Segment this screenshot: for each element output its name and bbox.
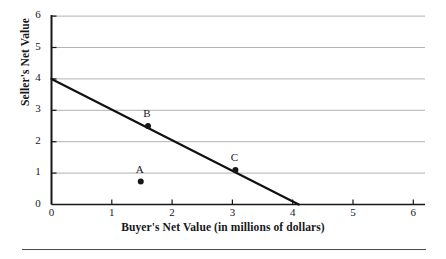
x-tick-label: 3 <box>224 206 240 218</box>
x-tick-label: 4 <box>285 206 301 218</box>
point-label-b: B <box>140 107 154 119</box>
chart-figure: Seller's Net Value Buyer's Net Value (in… <box>0 0 446 259</box>
y-tick-label: 4 <box>30 71 46 83</box>
y-tick-label: 2 <box>30 134 46 146</box>
data-point-marker <box>138 179 144 185</box>
bottom-rule <box>22 249 426 250</box>
x-tick-label: 1 <box>104 206 120 218</box>
point-label-c: C <box>227 151 241 163</box>
y-tick-label: 1 <box>30 165 46 177</box>
y-tick-label: 5 <box>30 40 46 52</box>
x-tick-label: 5 <box>345 206 361 218</box>
x-tick-label: 6 <box>405 206 421 218</box>
data-point-marker <box>145 123 151 129</box>
point-label-a: A <box>133 163 147 175</box>
x-tick-label: 2 <box>164 206 180 218</box>
data-point-marker <box>232 167 238 173</box>
y-tick-label: 3 <box>30 102 46 114</box>
y-tick-label: 0 <box>30 197 46 209</box>
x-axis-title: Buyer's Net Value (in millions of dollar… <box>0 221 446 233</box>
y-tick-label: 6 <box>30 8 46 20</box>
